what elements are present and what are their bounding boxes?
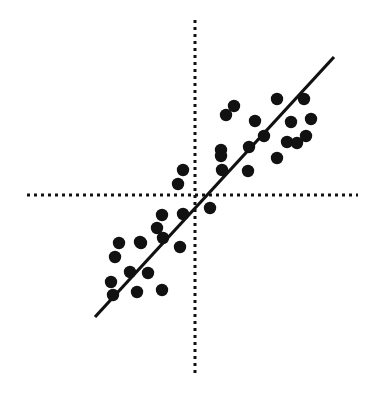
data-point (157, 232, 169, 244)
data-point (243, 141, 255, 153)
data-point (177, 208, 189, 220)
data-point (113, 237, 125, 249)
data-point (105, 276, 117, 288)
data-point (109, 251, 121, 263)
data-point (107, 289, 119, 301)
data-point (204, 202, 216, 214)
data-point (298, 93, 310, 105)
data-point (174, 241, 186, 253)
data-point (177, 164, 189, 176)
plot-canvas (0, 0, 379, 396)
data-point (172, 178, 184, 190)
data-point (258, 130, 270, 142)
data-point (249, 115, 261, 127)
data-point (271, 152, 283, 164)
data-point (131, 286, 143, 298)
data-point (124, 266, 136, 278)
data-point (156, 284, 168, 296)
data-point (216, 164, 228, 176)
data-point (135, 237, 147, 249)
data-point (142, 267, 154, 279)
data-point (156, 209, 168, 221)
data-point (285, 116, 297, 128)
plot-background (0, 0, 379, 396)
data-point (215, 150, 227, 162)
scatter-plot-figure (0, 0, 379, 396)
data-point (271, 93, 283, 105)
data-point (305, 113, 317, 125)
data-point (242, 165, 254, 177)
data-point (291, 137, 303, 149)
data-point (220, 109, 232, 121)
